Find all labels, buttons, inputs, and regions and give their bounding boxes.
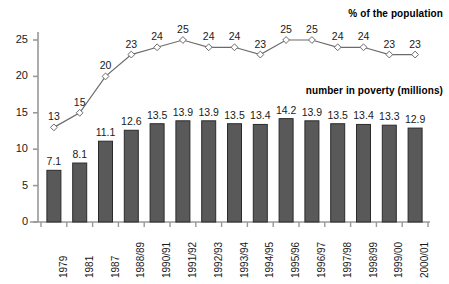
x-axis-tick-label: 1987 (110, 256, 121, 278)
line-marker-diamond (360, 44, 367, 51)
bar-value-label: 8.1 (64, 148, 96, 160)
bar (150, 124, 164, 222)
x-axis-tick-label: 1994/95 (264, 242, 275, 278)
line-marker-diamond (309, 37, 316, 44)
x-axis-tick-label: 2000/01 (419, 242, 430, 278)
line-marker-diamond (283, 37, 290, 44)
y-axis-tick-label: 25 (6, 33, 28, 45)
x-axis-tick-label: 1981 (84, 256, 95, 278)
x-axis-tick-label: 1998/99 (368, 242, 379, 278)
line-marker-diamond (334, 44, 341, 51)
line-marker-diamond (412, 51, 419, 58)
x-axis-tick-label: 1999/00 (393, 242, 404, 278)
x-axis-tick-label: 1992/93 (213, 242, 224, 278)
y-axis-tick-label: 0 (6, 215, 28, 227)
line-marker-diamond (205, 44, 212, 51)
bar (202, 121, 216, 222)
legend-number-in-poverty: number in poverty (millions) (306, 85, 443, 96)
line-marker-diamond (257, 51, 264, 58)
line-marker-diamond (154, 44, 161, 51)
x-axis-tick-label: 1993/94 (239, 242, 250, 278)
x-axis-tick-label: 1988/89 (135, 242, 146, 278)
x-axis-tick-label: 1995/96 (290, 242, 301, 278)
line-value-label: 15 (64, 96, 96, 108)
x-axis-tick-label: 1991/92 (187, 242, 198, 278)
bar (305, 121, 319, 222)
x-axis-tick-label: 1997/98 (342, 242, 353, 278)
bar (408, 128, 422, 222)
bar-value-label: 12.9 (399, 113, 431, 125)
legend-percent-of-population: % of the population (348, 8, 443, 19)
bar-value-label: 11.1 (90, 126, 122, 138)
y-axis-tick-label: 15 (6, 106, 28, 118)
line-marker-diamond (51, 124, 58, 131)
x-axis-tick-label: 1996/97 (316, 242, 327, 278)
line-marker-diamond (180, 37, 187, 44)
bar (176, 121, 190, 222)
bar (279, 119, 293, 222)
line-value-label: 13 (38, 110, 70, 122)
bar (253, 124, 267, 222)
bar (73, 163, 87, 222)
line-marker-diamond (231, 44, 238, 51)
line-value-label: 23 (244, 38, 276, 50)
bar (124, 130, 138, 222)
x-axis-tick-label: 1990/91 (161, 242, 172, 278)
bar (228, 124, 242, 222)
y-axis-tick-label: 10 (6, 142, 28, 154)
y-axis-tick-label: 5 (6, 179, 28, 191)
bar (99, 141, 113, 222)
line-value-label: 23 (399, 38, 431, 50)
poverty-chart: 0510152025 1979198119871988/891990/91199… (0, 0, 449, 284)
line-marker-diamond (386, 51, 393, 58)
line-value-label: 20 (90, 59, 122, 71)
bar (331, 124, 345, 222)
bar (357, 124, 371, 222)
bar (382, 125, 396, 222)
x-axis-tick-label: 1979 (58, 256, 69, 278)
bar (47, 170, 61, 222)
y-axis-tick-label: 20 (6, 69, 28, 81)
